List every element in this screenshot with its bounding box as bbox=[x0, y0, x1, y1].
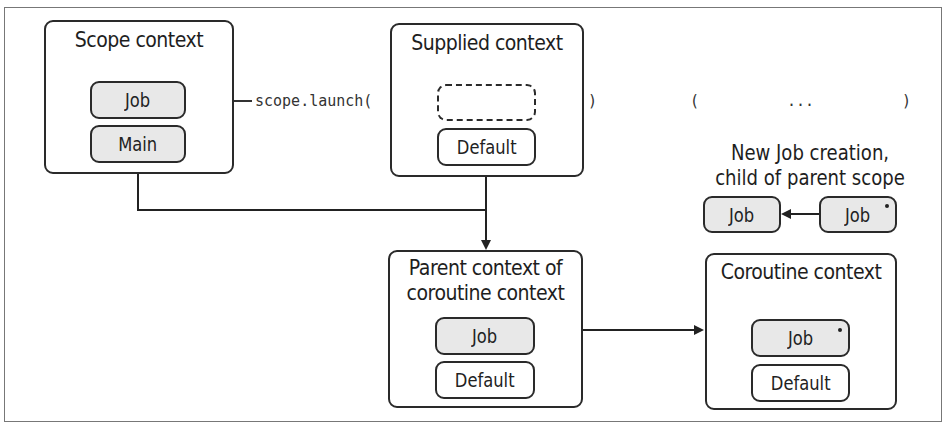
parent-context-title-line1: Parent context of bbox=[403, 255, 567, 280]
coroutine-default-element: Default bbox=[751, 364, 850, 402]
parent-default-element: Default bbox=[435, 361, 535, 399]
scope-main-label: Main bbox=[118, 133, 157, 155]
coroutine-job-label: Job bbox=[788, 327, 813, 349]
lambda-open-paren: ( bbox=[690, 92, 699, 110]
scope-job-element: Job bbox=[90, 81, 186, 119]
parent-context-title-line2: coroutine context bbox=[403, 280, 567, 305]
scope-to-parent-line bbox=[138, 173, 486, 210]
scope-context-title: Scope context bbox=[59, 27, 219, 52]
new-job-caption-line2: child of parent scope bbox=[707, 166, 913, 191]
supplied-context-title: Supplied context bbox=[405, 30, 568, 55]
new-job-dot-icon bbox=[885, 204, 889, 208]
parent-job-label: Job bbox=[729, 204, 754, 226]
coroutine-default-label: Default bbox=[771, 372, 831, 394]
lambda-body-ellipsis: ... bbox=[787, 92, 814, 110]
coroutine-job-dot-icon bbox=[838, 328, 842, 332]
coroutine-job-element: Job bbox=[751, 319, 850, 357]
child-job-element: Job bbox=[819, 196, 897, 233]
supplied-empty-slot bbox=[437, 84, 536, 121]
launch-close-paren: ) bbox=[588, 92, 597, 110]
scope-main-element: Main bbox=[90, 125, 186, 163]
coroutine-context-title: Coroutine context bbox=[720, 259, 882, 284]
parent-job-element: Job bbox=[703, 196, 781, 233]
new-job-caption-line1: New Job creation, bbox=[715, 141, 904, 166]
scope-job-label: Job bbox=[125, 89, 150, 111]
supplied-default-label: Default bbox=[457, 136, 517, 158]
parent-context-job-label: Job bbox=[472, 325, 497, 347]
lambda-close-paren: ) bbox=[902, 92, 911, 110]
supplied-default-element: Default bbox=[437, 128, 536, 166]
parent-default-label: Default bbox=[455, 369, 515, 391]
child-job-label: Job bbox=[845, 204, 870, 226]
parent-job-context-element: Job bbox=[435, 317, 535, 355]
launch-call-code: scope.launch( bbox=[255, 92, 372, 110]
